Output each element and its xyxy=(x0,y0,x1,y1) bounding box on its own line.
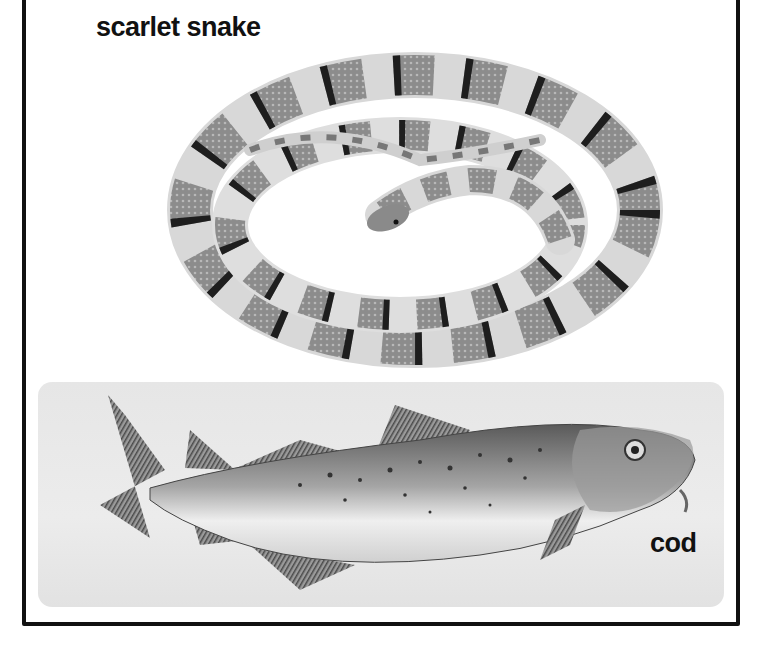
cod-illustration xyxy=(0,0,763,650)
cod-label: cod xyxy=(650,528,697,559)
